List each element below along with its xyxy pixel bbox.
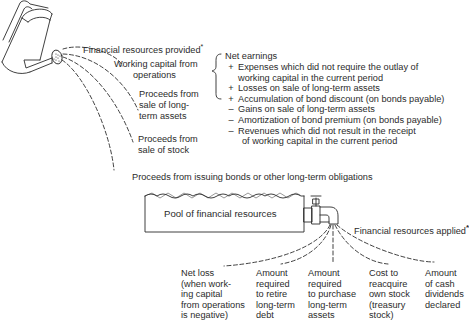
- faucet-icon: [304, 196, 338, 224]
- source-line: sale of long-: [139, 100, 189, 110]
- application-line: Cost to: [369, 268, 398, 278]
- adjustment-text: Gains on sale of long-term assets: [238, 104, 375, 114]
- adjustment-text: Accumulation of bond discount (on bonds …: [238, 94, 444, 104]
- adjustment-expenses-line2: working capital in the current period: [238, 73, 383, 84]
- adjustment-bond-discount: +Accumulation of bond discount (on bonds…: [224, 94, 444, 105]
- adjustment-bond-premium: –Amortization of bond premium (on bonds …: [224, 115, 442, 126]
- application-line: (when work-: [181, 279, 231, 289]
- plus-sign: +: [224, 62, 238, 73]
- applications-header: Financial resources applied*: [349, 211, 469, 237]
- adjustment-text: of working capital in the current period: [242, 136, 397, 146]
- source-sale-of-stock: Proceeds from: [138, 134, 198, 145]
- application-treasury-stock: Cost toreacquireown stock(treasurystock): [369, 268, 410, 321]
- source-line: Working capital from: [114, 59, 198, 69]
- application-line: Net loss: [181, 268, 214, 278]
- application-line: Amount: [308, 268, 340, 278]
- application-line: required: [308, 279, 342, 289]
- source-working-capital-line2: operations: [133, 70, 176, 81]
- application-line: ing capital: [181, 289, 222, 299]
- source-sale-long-term-assets-line2: sale of long-: [139, 100, 189, 111]
- adjustment-expenses: +Expenses which did not require the outl…: [224, 62, 418, 73]
- application-line: long-term: [256, 300, 295, 310]
- application-line: to retire: [256, 289, 287, 299]
- application-line: from operations: [181, 300, 245, 310]
- application-line: assets: [308, 310, 335, 320]
- source-working-capital: Working capital from: [114, 59, 198, 70]
- adjustment-text: Expenses which did not require the outla…: [238, 62, 418, 72]
- application-net-loss: Net loss(when work-ing capitalfrom opera…: [181, 268, 245, 321]
- source-line: Proceeds from issuing bonds or other lon…: [132, 172, 373, 182]
- application-line: stock): [369, 310, 394, 320]
- source-line: operations: [133, 70, 176, 80]
- rose-holes-icon: [53, 53, 60, 61]
- plus-sign: +: [224, 83, 238, 94]
- sources-footnote-mark: *: [201, 43, 204, 50]
- application-line: (treasury: [369, 300, 405, 310]
- adjustment-text: Losses on sale of long-term assets: [238, 83, 380, 93]
- application-line: reacquire: [369, 279, 407, 289]
- application-retire-debt: Amountrequiredto retirelong-termdebt: [256, 268, 295, 321]
- source-issuing-bonds: Proceeds from issuing bonds or other lon…: [132, 172, 373, 183]
- source-line: Proceeds from: [138, 134, 198, 144]
- source-sale-of-stock-line2: sale of stock: [138, 145, 189, 156]
- source-sale-long-term-assets-line3: term assets: [139, 111, 186, 122]
- adjustment-gains: –Gains on sale of long-term assets: [224, 104, 375, 115]
- minus-sign: –: [224, 115, 238, 126]
- application-line: declared: [425, 300, 460, 310]
- application-line: Amount: [425, 268, 457, 278]
- minus-sign: –: [224, 126, 238, 137]
- sources-header-label: Financial resources provided: [83, 45, 200, 55]
- adjustment-text: Amortization of bond premium (on bonds p…: [238, 115, 442, 125]
- application-line: to purchase: [308, 289, 356, 299]
- application-line: long-term: [308, 300, 347, 310]
- application-dividends: Amountof cashdividendsdeclared: [425, 268, 464, 310]
- application-line: is negative): [181, 310, 228, 320]
- applications-header-label: Financial resources applied: [354, 226, 466, 236]
- minus-sign: –: [224, 104, 238, 115]
- application-line: dividends: [425, 289, 464, 299]
- plus-sign: +: [224, 94, 238, 105]
- application-line: own stock: [369, 289, 410, 299]
- source-line: sale of stock: [138, 145, 189, 155]
- application-line: of cash: [425, 279, 455, 289]
- adjustment-text: working capital in the current period: [238, 73, 383, 83]
- source-sale-long-term-assets: Proceeds from: [139, 89, 199, 100]
- adjustment-revenues-line2: of working capital in the current period: [242, 136, 397, 147]
- source-line: Proceeds from: [139, 89, 199, 99]
- curly-brace: [212, 54, 221, 99]
- application-line: required: [256, 279, 290, 289]
- watering-can-icon: [2, 1, 64, 74]
- pool-label: Pool of financial resources: [164, 208, 277, 219]
- source-line: term assets: [139, 111, 186, 121]
- application-line: Amount: [256, 268, 288, 278]
- application-line: debt: [256, 310, 274, 320]
- sources-header: Financial resources provided*: [78, 30, 203, 56]
- adjustment-text: Revenues which did not result in the rec…: [238, 126, 416, 136]
- adjustment-losses: +Losses on sale of long-term assets: [224, 83, 380, 94]
- application-purchase-assets: Amountrequiredto purchaselong-termassets: [308, 268, 356, 321]
- adjustment-revenues: –Revenues which did not result in the re…: [224, 126, 416, 137]
- net-earnings-title: Net earnings: [225, 51, 277, 62]
